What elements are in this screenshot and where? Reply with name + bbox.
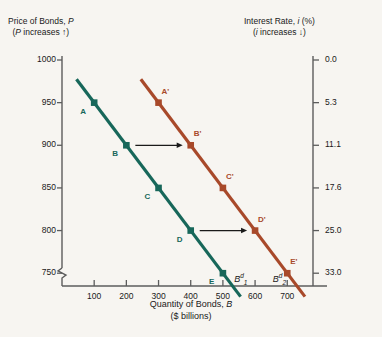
- point-label-C-prime: C': [226, 172, 234, 181]
- point-label-B-prime: B': [194, 129, 202, 138]
- point-label-D-prime: D': [258, 215, 266, 224]
- point-label-B: B: [112, 149, 118, 158]
- point-label-E-prime: E': [290, 257, 297, 266]
- y-tick-label-left-1000: 1000: [20, 54, 56, 64]
- y-tick-label-left-950: 950: [20, 97, 56, 107]
- y-tick-label-right-0.0: 0.0: [325, 54, 337, 64]
- data-point-B1d-D: [187, 227, 194, 234]
- y-tick-label-right-33.0: 33.0: [325, 267, 342, 277]
- x-axis-title: Quantity of Bonds, B ($ billions): [0, 298, 382, 322]
- x-tick-label-400: 400: [179, 291, 203, 301]
- point-label-D: D: [177, 235, 183, 244]
- point-label-A-prime: A': [162, 87, 170, 96]
- data-point-B2d-D': [252, 227, 259, 234]
- x-tick-label-700: 700: [275, 291, 299, 301]
- y-tick-label-left-850: 850: [20, 182, 56, 192]
- x-tick-label-100: 100: [82, 291, 106, 301]
- x-tick-label-600: 600: [243, 291, 267, 301]
- data-point-B2d-A': [155, 99, 162, 106]
- curve-label-B2d: Bd2: [273, 272, 286, 286]
- x-tick-label-500: 500: [211, 291, 235, 301]
- data-point-B2d-B': [187, 142, 194, 149]
- y-tick-label-right-17.6: 17.6: [325, 182, 342, 192]
- curve-label-B1d: Bd1: [234, 272, 247, 286]
- point-label-E: E: [209, 277, 214, 286]
- shift-arrow-1-head: [177, 142, 183, 148]
- point-label-C: C: [145, 192, 151, 201]
- data-point-B1d-E: [220, 270, 227, 277]
- x-tick-label-200: 200: [114, 291, 138, 301]
- chart-plot-area: [0, 0, 382, 337]
- data-point-B1d-C: [155, 185, 162, 192]
- y-tick-label-left-750: 750: [20, 267, 56, 277]
- x-axis-title-line2: ($ billions): [170, 311, 211, 321]
- data-point-B2d-C': [220, 185, 227, 192]
- y-tick-label-right-11.1: 11.1: [325, 139, 341, 149]
- y-tick-label-left-800: 800: [20, 225, 56, 235]
- y-tick-label-right-25.0: 25.0: [325, 225, 342, 235]
- bond-demand-shift-chart: Price of Bonds, P (P increases ↑) Intere…: [0, 0, 382, 337]
- shift-arrow-2-head: [241, 228, 247, 234]
- y-axis-break-symbol: [58, 268, 66, 286]
- y-tick-label-left-900: 900: [20, 139, 56, 149]
- data-point-B1d-B: [123, 142, 130, 149]
- point-label-A: A: [80, 107, 86, 116]
- x-tick-label-300: 300: [147, 291, 171, 301]
- data-point-B1d-A: [91, 99, 98, 106]
- y-tick-label-right-5.3: 5.3: [325, 97, 337, 107]
